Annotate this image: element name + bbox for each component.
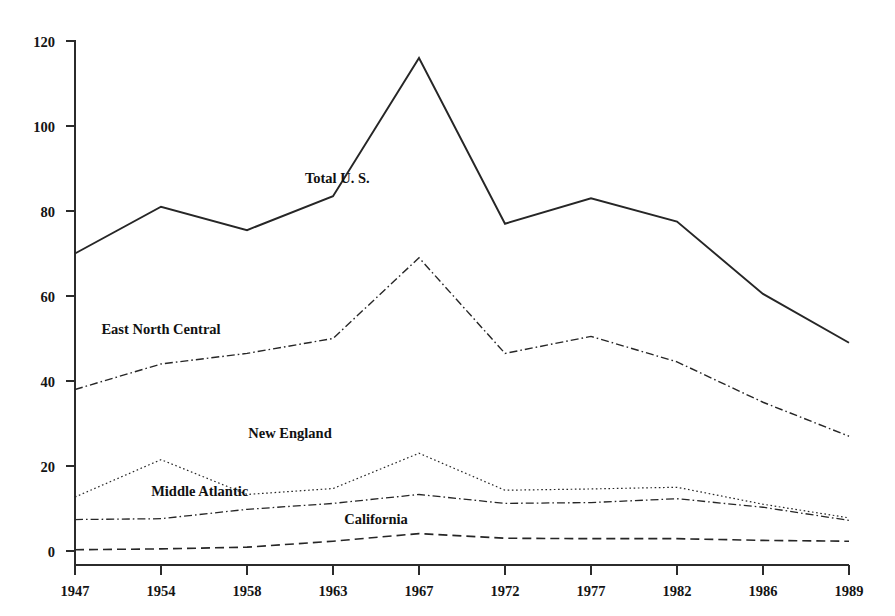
x-tick-label: 1982 xyxy=(663,583,692,599)
y-axis-ticks: 020406080100120 xyxy=(33,34,76,560)
y-tick-label: 60 xyxy=(41,289,56,305)
x-tick-label: 1967 xyxy=(405,583,434,599)
y-tick-label: 100 xyxy=(33,119,55,135)
series-label-middle-atlantic: Middle Atlantic xyxy=(151,483,249,499)
series-line-california xyxy=(75,534,849,550)
y-tick-label: 20 xyxy=(41,459,56,475)
series-line-total-u-s xyxy=(75,58,849,343)
y-tick-label: 0 xyxy=(48,544,55,560)
line-chart: 020406080100120 194719541958196319671972… xyxy=(0,0,895,616)
series-lines xyxy=(75,58,849,550)
x-tick-label: 1977 xyxy=(577,583,606,599)
y-tick-label: 120 xyxy=(33,34,55,50)
x-tick-label: 1958 xyxy=(233,583,262,599)
series-line-east-north-central xyxy=(75,258,849,437)
x-tick-label: 1989 xyxy=(835,583,864,599)
x-tick-label: 1947 xyxy=(61,583,90,599)
x-tick-label: 1986 xyxy=(749,583,778,599)
x-axis-ticks: 1947195419581963196719721977198219861989 xyxy=(61,565,864,599)
y-tick-label: 40 xyxy=(41,374,56,390)
x-tick-label: 1972 xyxy=(491,583,520,599)
chart-canvas: 020406080100120 194719541958196319671972… xyxy=(0,0,895,616)
series-labels: Total U. S.East North CentralNew England… xyxy=(101,170,408,526)
x-tick-label: 1954 xyxy=(147,583,176,599)
y-tick-label: 80 xyxy=(41,204,56,220)
series-label-total-u-s: Total U. S. xyxy=(305,170,370,186)
x-tick-label: 1963 xyxy=(319,583,348,599)
series-label-california: California xyxy=(344,511,408,527)
series-label-east-north-central: East North Central xyxy=(101,321,220,337)
series-label-new-england: New England xyxy=(248,425,331,441)
